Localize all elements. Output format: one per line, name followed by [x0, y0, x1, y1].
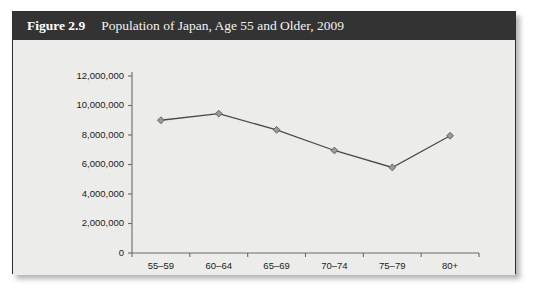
data-point-marker [331, 147, 338, 154]
data-point-marker [447, 132, 454, 139]
y-tick-label: 0 [119, 247, 124, 258]
x-axis: 55–5960–6465–6970–7475–7980+ [132, 253, 479, 271]
data-point-marker [389, 164, 396, 171]
figure-title: Population of Japan, Age 55 and Older, 2… [101, 18, 344, 34]
data-point-marker [215, 110, 222, 117]
figure-caption-bar: Figure 2.9 Population of Japan, Age 55 a… [13, 12, 515, 40]
chart-panel: 02,000,0004,000,0006,000,0008,000,00010,… [13, 40, 515, 275]
data-point-marker [273, 126, 280, 133]
y-tick-label: 10,000,000 [76, 99, 124, 110]
y-axis: 02,000,0004,000,0006,000,0008,000,00010,… [76, 70, 132, 258]
x-tick-label: 80+ [442, 260, 459, 271]
y-tick-label: 8,000,000 [82, 129, 124, 140]
y-tick-label: 4,000,000 [82, 188, 124, 199]
x-tick-label: 75–79 [379, 260, 405, 271]
y-tick-label: 2,000,000 [82, 217, 124, 228]
figure-number: Figure 2.9 [27, 18, 85, 34]
x-tick-label: 60–64 [206, 260, 232, 271]
y-tick-label: 6,000,000 [82, 158, 124, 169]
line-chart: 02,000,0004,000,0006,000,0008,000,00010,… [13, 40, 517, 275]
x-tick-label: 55–59 [148, 260, 174, 271]
data-point-marker [158, 117, 165, 124]
x-tick-label: 65–69 [263, 260, 289, 271]
x-tick-label: 70–74 [321, 260, 347, 271]
data-series-line [161, 114, 450, 168]
y-tick-label: 12,000,000 [76, 70, 124, 81]
figure-container: Figure 2.9 Population of Japan, Age 55 a… [12, 11, 516, 274]
